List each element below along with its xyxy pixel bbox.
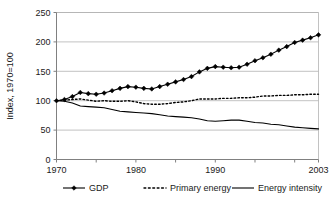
chart-container: 050100150200250 1970198019902003 Index, … <box>0 0 335 203</box>
y-tick-label-200: 200 <box>35 37 50 47</box>
line-chart: 050100150200250 1970198019902003 Index, … <box>0 0 335 203</box>
y-tick-label-100: 100 <box>35 96 50 106</box>
y-axis-title-group: Index, 1970=100 <box>5 52 15 119</box>
legend-label: GDP <box>89 183 109 193</box>
chart-legend: GDPPrimary energyEnergy intensity <box>63 183 323 193</box>
x-tick-label-1970: 1970 <box>46 165 66 175</box>
y-tick-label-50: 50 <box>40 125 50 135</box>
y-tick-label-250: 250 <box>35 8 50 18</box>
legend-label: Primary energy <box>170 183 232 193</box>
x-tick-label-2003: 2003 <box>308 165 328 175</box>
x-tick-label-1980: 1980 <box>126 165 146 175</box>
y-tick-label-0: 0 <box>45 155 50 165</box>
y-tick-label-150: 150 <box>35 67 50 77</box>
y-axis-title: Index, 1970=100 <box>5 52 15 119</box>
x-tick-label-1990: 1990 <box>205 165 225 175</box>
legend-label: Energy intensity <box>258 183 323 193</box>
